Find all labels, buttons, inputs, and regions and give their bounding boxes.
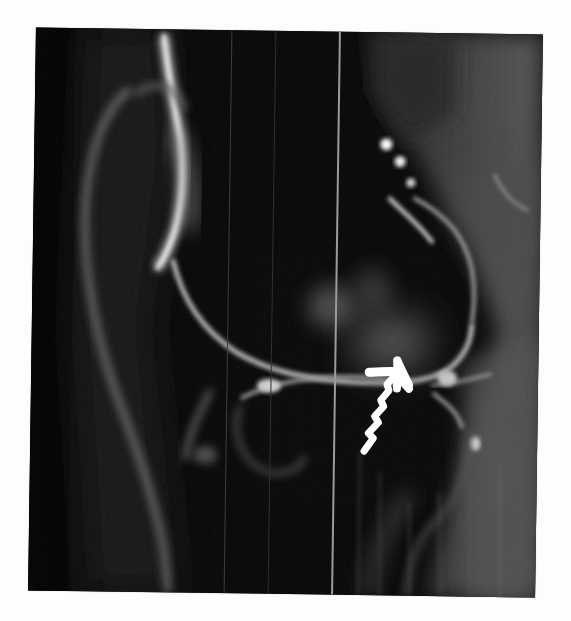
mri-scan-graphic (28, 27, 543, 597)
figure-page: sagittal knee MRI scan (0, 0, 571, 621)
mri-scan-image: sagittal knee MRI scan (28, 27, 543, 597)
